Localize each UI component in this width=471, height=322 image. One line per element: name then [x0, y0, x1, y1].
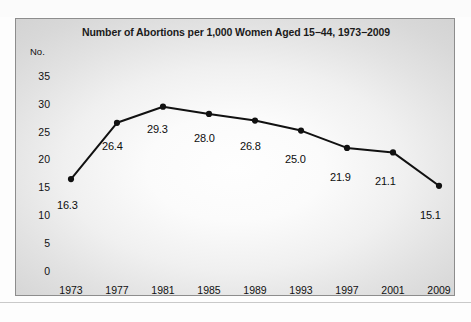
data-point-1985: [206, 111, 212, 117]
series-line-chart: [16, 19, 455, 296]
data-point-1981: [160, 104, 166, 110]
data-point-1973: [68, 176, 74, 182]
data-label-1989: 26.8: [240, 140, 261, 152]
data-point-1989: [252, 118, 258, 124]
data-label-1977: 26.4: [102, 140, 123, 152]
data-point-1977: [114, 120, 120, 126]
plot-area: No. 35 30 25 20 15 10 5 0 1973 1977 1981…: [16, 19, 455, 296]
page-root: Number of Abortions per 1,000 Women Aged…: [0, 0, 471, 322]
data-label-1997: 21.9: [330, 171, 351, 183]
chart-panel: Number of Abortions per 1,000 Women Aged…: [15, 18, 455, 296]
data-label-1973: 16.3: [57, 199, 78, 211]
data-label-2009: 15.1: [420, 209, 441, 221]
data-point-1993: [298, 128, 304, 134]
data-label-1993: 25.0: [285, 153, 306, 165]
data-label-1981: 29.3: [147, 123, 168, 135]
data-point-2001: [390, 149, 396, 155]
footer-area: [0, 303, 471, 322]
top-margin-band: [0, 0, 471, 17]
data-label-1985: 28.0: [194, 132, 215, 144]
data-point-2009: [436, 183, 442, 189]
data-label-2001: 21.1: [375, 175, 396, 187]
data-point-1997: [344, 145, 350, 151]
